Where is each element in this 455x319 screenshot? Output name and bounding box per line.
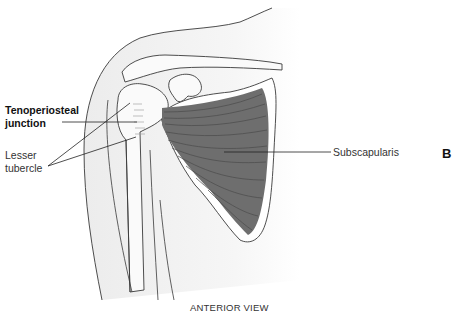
tenoperiosteal-label-line2: junction <box>5 117 79 130</box>
tenoperiosteal-junction-label: Tenoperiosteal junction <box>5 104 79 130</box>
lesser-tubercle-label-line1: Lesser <box>5 149 42 162</box>
shoulder-anatomy-diagram <box>0 0 455 319</box>
figure-caption: ANTERIOR VIEW <box>190 302 269 313</box>
tenoperiosteal-label-line1: Tenoperiosteal <box>5 104 79 117</box>
lesser-tubercle-label: Lesser tubercle <box>5 149 42 175</box>
lesser-tubercle-label-line2: tubercle <box>5 162 42 175</box>
subscapularis-label: Subscapularis <box>333 146 399 159</box>
panel-letter: B <box>442 146 451 161</box>
